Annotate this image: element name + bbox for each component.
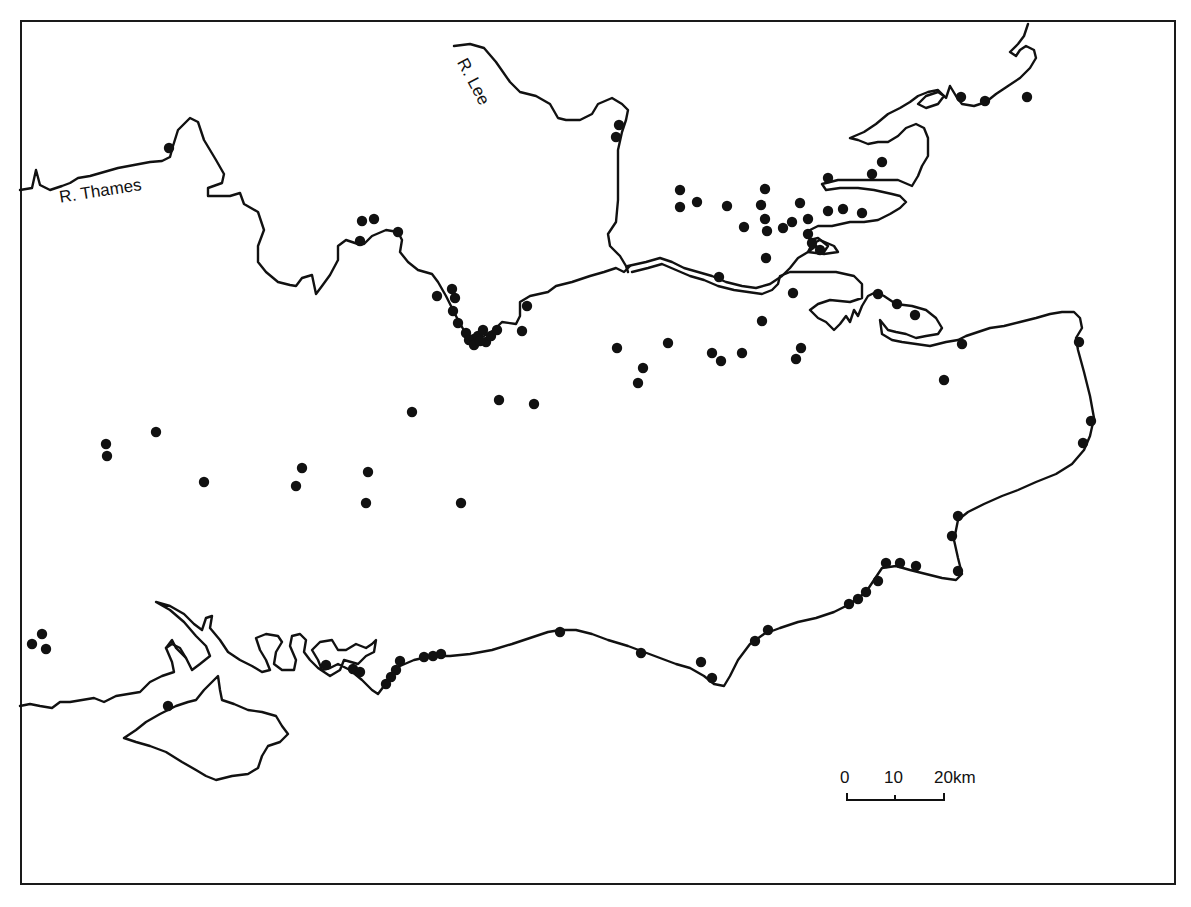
- site-marker-dot: [861, 587, 871, 597]
- site-marker-dot: [675, 202, 685, 212]
- site-marker-dot: [947, 531, 957, 541]
- site-marker-dot: [778, 223, 788, 233]
- site-marker-dot: [612, 343, 622, 353]
- site-marker-dot: [614, 120, 624, 130]
- site-marker-dot: [522, 301, 532, 311]
- site-marker-dot: [432, 291, 442, 301]
- site-marker-dot: [939, 375, 949, 385]
- scale-bar-line: [838, 768, 998, 808]
- site-marker-dot: [1078, 438, 1088, 448]
- site-marker-dot: [791, 354, 801, 364]
- site-marker-dot: [807, 238, 817, 248]
- site-marker-dot: [707, 673, 717, 683]
- river-thames-west: [20, 118, 630, 340]
- site-marker-dot: [911, 561, 921, 571]
- site-marker-dot: [838, 204, 848, 214]
- site-marker-dot: [895, 558, 905, 568]
- site-marker-dot: [447, 284, 457, 294]
- site-marker-dot: [957, 339, 967, 349]
- site-marker-dot: [763, 625, 773, 635]
- site-marker-dot: [795, 198, 805, 208]
- site-marker-dot: [428, 651, 438, 661]
- site-marker-dot: [363, 467, 373, 477]
- site-marker-dot: [815, 245, 825, 255]
- site-marker-dot: [737, 348, 747, 358]
- site-marker-dot: [857, 208, 867, 218]
- site-marker-dot: [27, 639, 37, 649]
- site-marker-dot: [956, 92, 966, 102]
- site-marker-dot: [633, 378, 643, 388]
- site-marker-dot: [714, 272, 724, 282]
- site-marker-dot: [355, 667, 365, 677]
- site-marker-dot: [297, 463, 307, 473]
- site-marker-dot: [756, 200, 766, 210]
- site-marker-dot: [517, 326, 527, 336]
- site-marker-dot: [41, 644, 51, 654]
- site-marker-dot: [844, 599, 854, 609]
- site-marker-dot: [291, 481, 301, 491]
- site-marker-dot: [453, 318, 463, 328]
- site-marker-dot: [357, 216, 367, 226]
- site-marker-dot: [788, 288, 798, 298]
- site-marker-dot: [1022, 92, 1032, 102]
- site-marker-dot: [867, 169, 877, 179]
- site-marker-dot: [555, 627, 565, 637]
- site-marker-dot: [450, 293, 460, 303]
- site-marker-dot: [164, 143, 174, 153]
- site-marker-dot: [675, 185, 685, 195]
- site-marker-dot: [456, 498, 466, 508]
- site-marker-dot: [787, 217, 797, 227]
- site-marker-dot: [361, 498, 371, 508]
- site-marker-dot: [636, 648, 646, 658]
- site-marker-dot: [910, 310, 920, 320]
- site-marker-dot: [750, 636, 760, 646]
- site-marker-dot: [393, 227, 403, 237]
- site-marker-dot: [953, 511, 963, 521]
- site-marker-dot: [803, 214, 813, 224]
- site-marker-dot: [757, 316, 767, 326]
- site-marker-dot: [877, 157, 887, 167]
- site-marker-dot: [101, 439, 111, 449]
- site-marker-dot: [663, 338, 673, 348]
- site-marker-dot: [407, 407, 417, 417]
- site-marker-dot: [796, 343, 806, 353]
- site-marker-dot: [707, 348, 717, 358]
- site-marker-dot: [716, 356, 726, 366]
- site-marker-dot: [448, 306, 458, 316]
- site-marker-dot: [873, 289, 883, 299]
- isle-of-wight: [124, 676, 288, 780]
- site-marker-dot: [475, 336, 485, 346]
- site-marker-dot: [722, 201, 732, 211]
- site-marker-dot: [803, 229, 813, 239]
- site-marker-dot: [762, 226, 772, 236]
- thames-estuary-north: [628, 24, 1036, 288]
- site-marker-dot: [953, 566, 963, 576]
- site-marker-dot: [611, 132, 621, 142]
- site-marker-dot: [492, 325, 502, 335]
- site-marker-dot: [692, 197, 702, 207]
- site-marker-dot: [199, 477, 209, 487]
- site-marker-dot: [1074, 337, 1084, 347]
- site-marker-dot: [980, 96, 990, 106]
- site-marker-dot: [163, 701, 173, 711]
- scale-bar: 0 10 20km: [838, 768, 998, 808]
- site-marker-dot: [638, 363, 648, 373]
- site-marker-dot: [151, 427, 161, 437]
- site-marker-dot: [102, 451, 112, 461]
- site-marker-dot: [760, 184, 770, 194]
- map-canvas: [0, 0, 1191, 907]
- site-marker-dot: [321, 660, 331, 670]
- site-marker-dot: [892, 299, 902, 309]
- site-marker-dot: [37, 629, 47, 639]
- site-marker-dot: [853, 594, 863, 604]
- site-marker-dot: [761, 253, 771, 263]
- site-marker-dot: [696, 657, 706, 667]
- site-marker-dot: [381, 679, 391, 689]
- site-marker-dot: [494, 395, 504, 405]
- site-marker-dot: [355, 236, 365, 246]
- site-marker-dot: [529, 399, 539, 409]
- site-marker-dot: [739, 222, 749, 232]
- site-marker-dot: [760, 214, 770, 224]
- site-marker-dot: [873, 576, 883, 586]
- site-marker-dot: [369, 214, 379, 224]
